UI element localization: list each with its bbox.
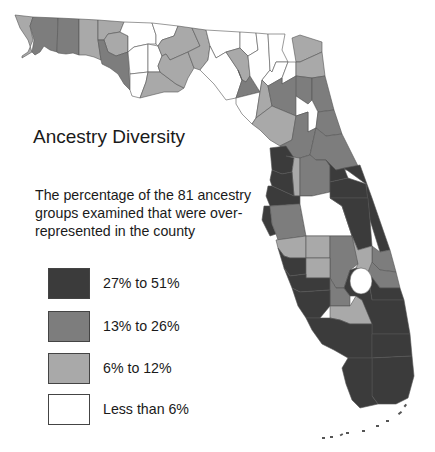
map-title: Ancestry Diversity <box>33 126 185 148</box>
county-okaloosa <box>57 18 79 55</box>
legend-label: 6% to 12% <box>103 360 172 376</box>
lake-okeechobee <box>350 268 372 294</box>
county-collier <box>306 318 372 358</box>
county-lee <box>292 288 330 318</box>
legend-label: 13% to 26% <box>103 318 180 334</box>
county-hardee <box>306 236 330 258</box>
legend-swatch <box>48 394 90 425</box>
map-description: The percentage of the 81 ancestry groups… <box>35 186 265 240</box>
legend-item-27-51: 27% to 51% <box>48 268 248 300</box>
legend-swatch <box>48 311 90 342</box>
county-broward <box>372 334 412 358</box>
legend-label: Less than 6% <box>103 401 189 417</box>
legend-swatch <box>48 353 90 384</box>
legend-item-6-12: 6% to 12% <box>48 353 248 385</box>
county-miami-dade <box>372 356 414 404</box>
county-lake <box>300 155 330 196</box>
county-escambia <box>15 15 33 58</box>
county-santa-rosa <box>30 17 58 55</box>
county-desoto <box>306 258 330 278</box>
legend-swatch <box>48 268 90 299</box>
county-hillsborough <box>270 204 306 240</box>
florida-keys <box>322 404 407 439</box>
legend-item-less-than-6: Less than 6% <box>48 394 248 426</box>
legend-item-13-26: 13% to 26% <box>48 311 248 343</box>
legend-label: 27% to 51% <box>103 275 180 291</box>
